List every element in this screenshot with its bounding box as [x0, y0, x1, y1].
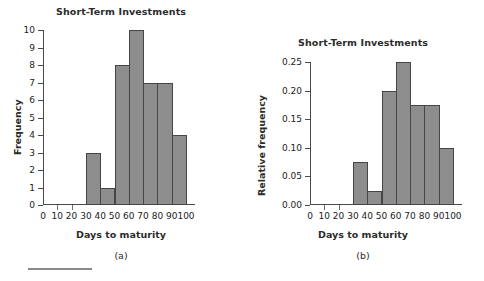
y-axis-tick	[38, 205, 43, 206]
histogram-bar	[86, 153, 101, 206]
y-axis-tick-label: 10	[24, 26, 35, 35]
y-axis-tick-label: 0.20	[282, 86, 302, 95]
bar-series-b	[310, 62, 453, 205]
histogram-bar	[143, 83, 158, 206]
y-axis-tick	[305, 91, 310, 92]
x-axis-tick-label: 20	[333, 212, 344, 221]
x-axis-tick	[72, 205, 73, 210]
x-axis-tick	[324, 205, 325, 210]
histogram-bar	[157, 83, 172, 206]
chart-caption-a: (a)	[0, 250, 242, 261]
x-axis-tick-label: 40	[361, 212, 372, 221]
plot-area-a: 012345678910 0102030405060708090100	[43, 30, 186, 205]
x-axis-tick-label: 90	[166, 212, 177, 221]
y-axis-tick	[38, 188, 43, 189]
y-axis-tick	[38, 100, 43, 101]
y-axis-tick	[305, 205, 310, 206]
y-axis-tick-label: 0.05	[282, 172, 302, 181]
chart-title-b: Short-Term Investments	[242, 37, 484, 48]
y-axis-tick	[38, 153, 43, 154]
x-axis-tick-label: 100	[444, 212, 461, 221]
x-axis-tick-label: 0	[40, 212, 46, 221]
y-axis-tick	[38, 118, 43, 119]
y-axis-tick	[305, 148, 310, 149]
y-axis-tick-label: 9	[29, 43, 35, 52]
histogram-bar	[129, 30, 144, 205]
histogram-bar	[410, 105, 425, 205]
y-axis-tick	[305, 119, 310, 120]
y-axis-tick	[305, 176, 310, 177]
x-axis-tick-label: 60	[390, 212, 401, 221]
histogram-bar	[367, 191, 382, 205]
y-axis-tick-label: 5	[29, 113, 35, 122]
x-axis-tick-label: 60	[123, 212, 134, 221]
histogram-bar	[100, 188, 115, 206]
histogram-bar	[172, 135, 187, 205]
x-axis-tick-label: 70	[404, 212, 415, 221]
y-axis-tick-label: 4	[29, 131, 35, 140]
y-axis-tick	[38, 48, 43, 49]
x-axis-tick	[57, 205, 58, 210]
y-axis-tick-label: 8	[29, 61, 35, 70]
x-axis-tick-label: 0	[307, 212, 313, 221]
x-axis-tick-label: 40	[94, 212, 105, 221]
y-axis-tick-label: 0	[29, 201, 35, 210]
y-axis-tick	[38, 30, 43, 31]
y-axis-tick-label: 2	[29, 166, 35, 175]
chart-title-a: Short-Term Investments	[0, 6, 242, 17]
y-axis-title-a: Frequency	[12, 99, 23, 155]
y-axis-tick-label: 0.25	[282, 58, 302, 67]
x-axis-title-a: Days to maturity	[0, 229, 242, 240]
x-axis-tick-label: 80	[152, 212, 163, 221]
x-axis-title-b: Days to maturity	[242, 229, 484, 240]
chart-caption-b: (b)	[242, 250, 484, 261]
y-axis-tick-label: 6	[29, 96, 35, 105]
y-axis-tick-label: 0.15	[282, 115, 302, 124]
histogram-bar	[396, 62, 411, 205]
y-axis-tick-label: 1	[29, 183, 35, 192]
x-axis-tick-label: 10	[319, 212, 330, 221]
figure-container: Short-Term Investments 012345678910 0102…	[0, 0, 484, 281]
histogram-bar	[439, 148, 454, 205]
plot-area-b: 0.000.050.100.150.200.25 010203040506070…	[310, 62, 453, 205]
x-axis-tick-label: 70	[137, 212, 148, 221]
y-axis-tick	[38, 83, 43, 84]
bar-series-a	[43, 30, 186, 205]
y-axis-tick	[38, 65, 43, 66]
x-axis-tick-label: 10	[52, 212, 63, 221]
footer-rule	[28, 268, 92, 270]
x-axis-tick-label: 80	[419, 212, 430, 221]
histogram-bar	[353, 162, 368, 205]
histogram-bar	[424, 105, 439, 205]
x-axis-tick-label: 20	[66, 212, 77, 221]
x-axis-tick-label: 50	[109, 212, 120, 221]
y-axis-tick	[38, 170, 43, 171]
chart-panel-a: Short-Term Investments 012345678910 0102…	[0, 0, 242, 281]
x-axis-tick-label: 90	[433, 212, 444, 221]
y-axis-tick	[305, 62, 310, 63]
y-axis-tick-label: 0.00	[282, 201, 302, 210]
histogram-bar	[382, 91, 397, 205]
x-axis-tick-label: 100	[177, 212, 194, 221]
y-axis-tick-label: 0.10	[282, 143, 302, 152]
y-axis-tick-label: 7	[29, 78, 35, 87]
x-axis-tick-label: 30	[80, 212, 91, 221]
histogram-bar	[115, 65, 130, 205]
x-axis-tick-label: 50	[376, 212, 387, 221]
y-axis-tick-label: 3	[29, 148, 35, 157]
chart-panel-b: Short-Term Investments 0.000.050.100.150…	[242, 0, 484, 281]
x-axis-tick-label: 30	[347, 212, 358, 221]
y-axis-tick	[38, 135, 43, 136]
x-axis-tick	[339, 205, 340, 210]
y-axis-title-b: Relative frequency	[256, 95, 267, 196]
